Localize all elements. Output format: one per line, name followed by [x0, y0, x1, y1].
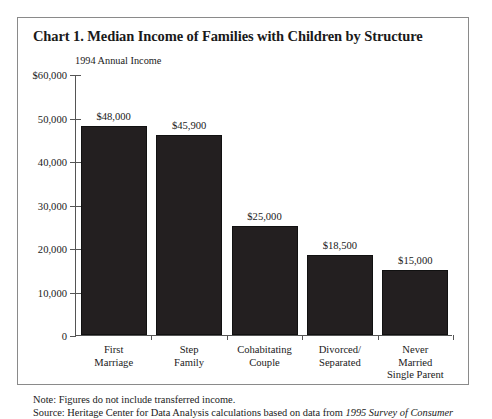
y-tick-label: 20,000	[38, 244, 67, 255]
category-label-line: Single Parent	[387, 369, 444, 382]
footnote-source-title: 1995 Survey of Consumer	[345, 407, 453, 418]
footnote-note: Note: Figures do not include transferred…	[33, 394, 483, 407]
chart-title: Chart 1. Median Income of Families with …	[33, 28, 423, 45]
category-label-line: Couple	[237, 357, 292, 370]
category-label: NeverMarriedSingle Parent	[387, 344, 444, 382]
x-tick	[378, 335, 379, 340]
bar-value-label: $48,000	[96, 111, 130, 122]
bar	[232, 226, 298, 335]
y-tick-label: 50,000	[38, 113, 67, 124]
category-label-line: Cohabitating	[237, 344, 292, 357]
y-tick-inner	[76, 75, 81, 76]
plot-area: $60,00050,00040,00030,00020,00010,0000 $…	[75, 75, 452, 336]
bar-value-label: $25,000	[247, 211, 281, 222]
y-tick	[70, 336, 76, 337]
footnote-source-prefix: Source: Heritage Center for Data Analysi…	[33, 407, 345, 418]
y-tick-label: $60,000	[33, 70, 67, 81]
bar	[307, 255, 373, 335]
category-label-line: Step	[174, 344, 204, 357]
category-label-line: First	[94, 344, 133, 357]
y-tick-label: 10,000	[38, 287, 67, 298]
category-label: CohabitatingCouple	[237, 344, 292, 369]
bar-value-label: $45,900	[172, 120, 206, 131]
y-tick-label: 40,000	[38, 157, 67, 168]
y-axis-subtitle: 1994 Annual Income	[75, 55, 161, 66]
y-tick-label: 30,000	[38, 200, 67, 211]
category-label-line: Married	[387, 357, 444, 370]
category-label: FirstMarriage	[94, 344, 133, 369]
category-label: Divorced/Separated	[319, 344, 361, 369]
bar-value-label: $18,500	[323, 240, 357, 251]
category-label-line: Separated	[319, 357, 361, 370]
bar	[156, 135, 222, 335]
x-tick	[151, 335, 152, 340]
chart-container: Chart 1. Median Income of Families with …	[17, 17, 469, 385]
x-tick	[453, 335, 454, 340]
x-tick	[227, 335, 228, 340]
y-tick-inner	[76, 119, 81, 120]
footnote-source: Source: Heritage Center for Data Analysi…	[33, 407, 483, 419]
bar-value-label: $15,000	[398, 255, 432, 266]
category-label-line: Family	[174, 357, 204, 370]
category-label-line: Marriage	[94, 357, 133, 370]
category-label: StepFamily	[174, 344, 204, 369]
footnotes: Note: Figures do not include transferred…	[33, 394, 483, 419]
category-label-line: Divorced/	[319, 344, 361, 357]
y-tick-label: 0	[62, 331, 67, 342]
x-tick	[302, 335, 303, 340]
bar	[382, 270, 448, 335]
category-label-line: Never	[387, 344, 444, 357]
bar	[81, 126, 147, 335]
